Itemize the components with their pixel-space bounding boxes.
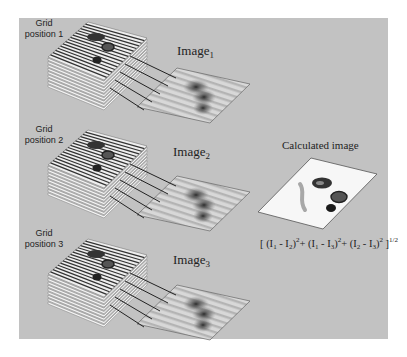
specimen-blob [93, 274, 102, 281]
projection-ray [115, 188, 152, 210]
image-title-subscript: 2 [205, 151, 210, 161]
specimen-blob [102, 260, 114, 268]
calculated-image-plane [258, 158, 377, 229]
image-blur-blob [193, 209, 213, 223]
calculated-image-face [258, 158, 377, 229]
image-title-subscript: 1 [209, 50, 214, 60]
specimen-blob [87, 250, 105, 258]
image-2-title: Image2 [173, 144, 210, 161]
grid-label-line1: Grid [20, 18, 68, 29]
specimen-blob [331, 192, 347, 203]
formula-term: - I [318, 238, 330, 249]
image-1-title: Image1 [177, 43, 214, 60]
image-3-title: Image3 [173, 252, 210, 269]
image-blur-blob [193, 101, 213, 115]
grid-label-line2: position 1 [20, 29, 68, 40]
formula-plus: + [299, 238, 308, 249]
formula-plus: + [341, 238, 350, 249]
image-blur-blob [193, 318, 213, 332]
grid-label-line2: position 2 [20, 135, 68, 146]
calculated-image-title: Calculated image [282, 139, 359, 151]
formula: [ (I1 - I2)2+ (I1 - I3)2+ (I2 - I3)2 ]1/… [260, 236, 398, 251]
grid-label-line2: position 3 [20, 239, 68, 250]
specimen-blob [102, 43, 114, 51]
formula-term: (I [350, 238, 357, 249]
specimen-blob [87, 33, 105, 41]
image-1-plane [137, 68, 250, 123]
image-3-plane [137, 285, 250, 340]
grid-position-1-label: Grid position 1 [20, 18, 68, 40]
image-title-text: Image [177, 43, 209, 58]
projection-ray [115, 80, 152, 102]
specimen-blob [93, 57, 102, 64]
grid-label-line1: Grid [20, 228, 68, 239]
formula-term: - I [360, 238, 372, 249]
specimen-blob-highlight [316, 181, 324, 185]
specimen-blob [93, 165, 102, 172]
image-2-plane [137, 176, 250, 231]
image-title-text: Image [173, 144, 205, 159]
specimen-blob [326, 204, 336, 212]
projection-ray [115, 297, 152, 319]
specimen-blob [87, 141, 105, 149]
formula-term: (I [308, 238, 315, 249]
grid-stack [48, 239, 147, 327]
grid-position-1-group [48, 22, 250, 123]
grid-position-2-group [48, 130, 250, 231]
grid-position-3-group [48, 239, 250, 340]
grid-position-2-label: Grid position 2 [20, 124, 68, 146]
grid-label-line1: Grid [20, 124, 68, 135]
image-title-subscript: 3 [205, 259, 210, 269]
specimen-blob [102, 151, 114, 159]
formula-power: 1/2 [389, 236, 398, 244]
grid-position-3-label: Grid position 3 [20, 228, 68, 250]
image-title-text: Image [173, 252, 205, 267]
formula-term: - I [277, 238, 289, 249]
